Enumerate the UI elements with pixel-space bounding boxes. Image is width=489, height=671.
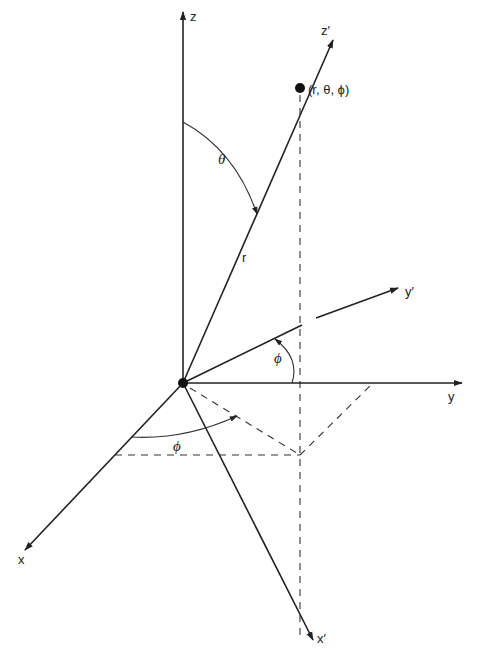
phi-arc-lower [131,416,237,437]
projection-y-parallel-dashed-line [300,384,372,455]
y-prime-axis-label: y′ [405,284,415,299]
x-axis-label: x [18,552,25,567]
x-prime-axis-label: x′ [317,631,327,646]
projection-radial-dashed-line [190,388,300,455]
radius-label: r [242,250,247,265]
position-point [295,83,305,93]
origin-point [178,378,188,388]
x-axis [25,383,183,550]
spherical-coordinates-diagram: z z′ y y′ x x′ (r, θ, ϕ) r θ ϕ ϕ [0,0,489,671]
theta-arc [183,122,257,214]
z-prime-axis-label: z′ [321,23,331,38]
theta-label: θ [218,151,226,167]
point-coordinates-label: (r, θ, ϕ) [308,82,349,97]
phi-label-upper: ϕ [274,350,282,366]
z-axis-label: z [190,9,197,24]
y-prime-axis-upper [316,288,398,318]
y-axis-label: y [448,389,455,404]
x-prime-axis [183,383,313,640]
phi-label-lower: ϕ [173,438,181,454]
y-prime-axis-lower [183,325,302,383]
